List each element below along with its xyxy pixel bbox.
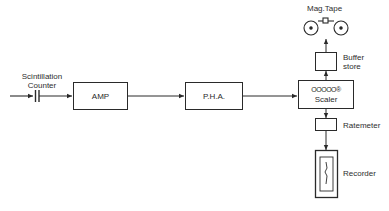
buffer-store-box — [315, 52, 337, 71]
buffer-label-line1: Buffer — [343, 53, 364, 62]
buffer-store-label: Buffer store — [343, 53, 364, 71]
magtape-icon — [304, 18, 348, 35]
magtape-label: Mag.Tape — [307, 4, 342, 13]
amp-box: AMP — [73, 82, 128, 110]
buffer-label-line2: store — [343, 62, 364, 71]
input-capacitor-icon — [10, 90, 72, 102]
scaler-label: Scaler — [315, 94, 338, 105]
scaler-digits: OOOOO® — [311, 85, 340, 94]
scaler-box: OOOOO® Scaler — [298, 80, 354, 109]
amp-label: AMP — [92, 92, 109, 101]
detector-label: Scintillation Counter — [14, 72, 70, 90]
pha-label: P.H.A. — [203, 92, 225, 101]
pha-box: P.H.A. — [185, 82, 243, 110]
detector-label-line2: Counter — [14, 81, 70, 90]
ratemeter-label: Ratemeter — [343, 121, 380, 130]
recorder-label: Recorder — [343, 169, 376, 178]
recorder-icon — [316, 151, 338, 198]
detector-label-line1: Scintillation — [14, 72, 70, 81]
ratemeter-box — [315, 118, 337, 131]
